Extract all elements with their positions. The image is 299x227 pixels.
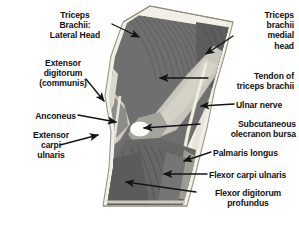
label-triceps-brachii-medial-head: Triceps brachii medial head bbox=[236, 10, 294, 51]
label-flexor-carpi-ulnaris: Flexor carpi ulnaris bbox=[209, 170, 299, 180]
label-palmaris-longus: Palmaris longus bbox=[213, 148, 297, 158]
label-extensor-digitorum-communis: Extensor digitorum (communis) bbox=[22, 58, 104, 89]
label-flexor-digitorum-profundus: Flexor digitorum profundus bbox=[198, 188, 298, 208]
label-anconeus: Anconeus bbox=[14, 111, 76, 121]
label-triceps-brachii-lateral-head: Triceps Brachii: Lateral Head bbox=[36, 10, 114, 41]
label-extensor-carpi-ulnaris: Extensor carpi ulnaris bbox=[18, 130, 84, 161]
olecranon-bursa-core bbox=[133, 124, 145, 133]
label-tendon-of-triceps-brachii: Tendon of triceps brachii bbox=[210, 71, 294, 91]
label-ulnar-nerve: Ulnar nerve bbox=[236, 100, 298, 110]
label-subcutaneous-olecranon-bursa: Subcutaneous olecranon bursa bbox=[202, 119, 296, 139]
